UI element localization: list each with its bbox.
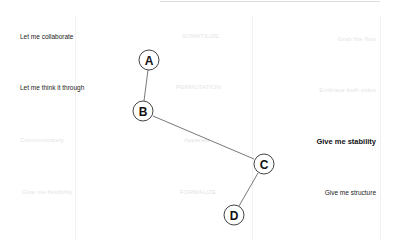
node-a[interactable]: A <box>139 50 159 70</box>
node-a-label: A <box>145 54 154 68</box>
node-c[interactable]: C <box>254 154 274 174</box>
node-c-label: C <box>260 158 269 172</box>
node-b[interactable]: B <box>133 101 153 121</box>
edge-b-c <box>153 116 254 159</box>
node-d[interactable]: D <box>224 205 244 225</box>
node-d-label: D <box>230 209 239 223</box>
edge-a-b <box>144 70 148 101</box>
path-diagram: A B C D <box>0 0 394 246</box>
edge-c-d <box>239 173 258 206</box>
node-b-label: B <box>139 105 148 119</box>
